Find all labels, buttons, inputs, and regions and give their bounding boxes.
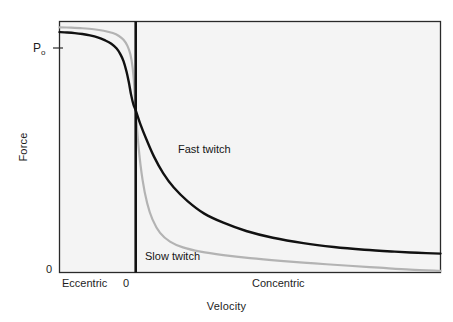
y-tick-label-po-text: P (33, 41, 41, 55)
y-tick-label-po-subscript: o (41, 48, 45, 57)
x-tick-label-eccentric: Eccentric (62, 277, 107, 289)
force-velocity-figure: Force Velocity Po 0 Eccentric 0 Concentr… (0, 0, 453, 322)
force-velocity-chart (0, 0, 453, 322)
x-tick-label-zero: 0 (123, 277, 129, 289)
plot-area-background (60, 22, 441, 273)
y-tick-label-po: Po (33, 41, 45, 57)
y-tick-label-zero: 0 (46, 263, 52, 275)
x-axis-title: Velocity (0, 300, 453, 312)
fast-twitch-label: Fast twitch (178, 143, 231, 155)
slow-twitch-label: Slow twitch (145, 250, 200, 262)
y-axis-title: Force (17, 117, 29, 177)
x-tick-label-concentric: Concentric (252, 277, 305, 289)
